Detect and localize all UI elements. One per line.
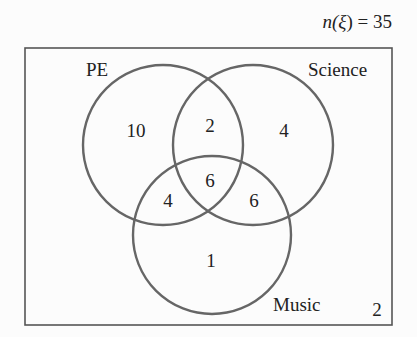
pe-label: PE xyxy=(86,59,108,80)
region-all-three: 6 xyxy=(205,170,215,191)
science-label: Science xyxy=(308,59,367,80)
region-outside: 2 xyxy=(372,299,382,320)
region-pe-music: 4 xyxy=(163,190,173,211)
region-pe-science: 2 xyxy=(205,115,215,136)
venn-diagram: n(ξ) = 35 PE Science Music 10 2 4 6 4 6 … xyxy=(0,0,417,337)
universal-set-size: n(ξ) = 35 xyxy=(322,11,392,33)
region-pe-only: 10 xyxy=(127,120,146,141)
region-science-only: 4 xyxy=(279,120,289,141)
region-science-music: 6 xyxy=(249,190,259,211)
region-music-only: 1 xyxy=(206,250,216,271)
music-label: Music xyxy=(273,294,321,315)
